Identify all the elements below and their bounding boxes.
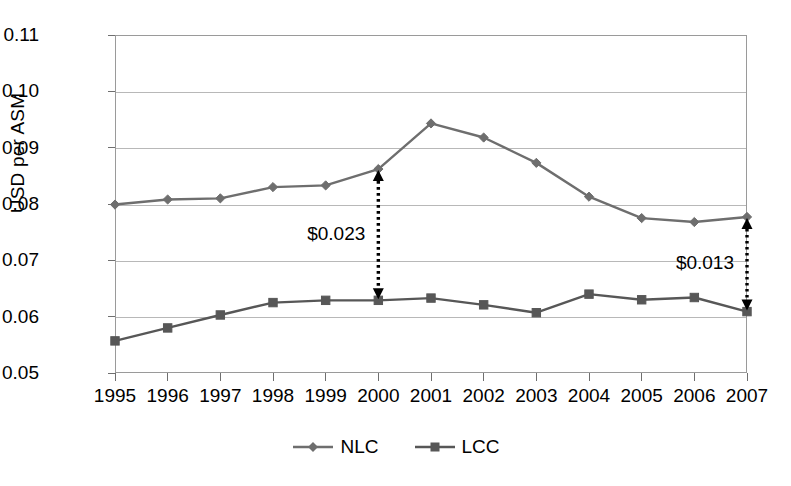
annotation-label: $0.023 [307, 224, 365, 243]
x-tick-mark [115, 373, 116, 381]
x-tick-label: 1996 [138, 386, 198, 405]
legend-label: NLC [340, 437, 378, 456]
x-tick-label: 1998 [243, 386, 303, 405]
x-tick-mark [589, 373, 590, 381]
plot-area [115, 35, 747, 373]
x-tick-mark [325, 373, 326, 381]
x-tick-label: 1999 [296, 386, 356, 405]
gridline [116, 261, 746, 262]
legend-marker-square-icon [413, 438, 457, 456]
x-tick-label: 2003 [506, 386, 566, 405]
x-tick-label: 1997 [190, 386, 250, 405]
y-tick-label: 0.08 [0, 194, 39, 213]
legend-item-lcc[interactable]: LCC [413, 437, 500, 456]
x-tick-label: 2005 [612, 386, 672, 405]
x-tick-mark [641, 373, 642, 381]
legend-marker-diamond-icon [291, 438, 335, 456]
gridline [116, 148, 746, 149]
x-tick-label: 2001 [401, 386, 461, 405]
x-tick-label: 2002 [454, 386, 514, 405]
legend-label: LCC [462, 437, 500, 456]
line-chart: USD per ASM 0.110.100.090.080.070.060.05… [0, 0, 791, 486]
x-tick-label: 2004 [559, 386, 619, 405]
x-tick-mark [167, 373, 168, 381]
gridline [116, 205, 746, 206]
y-tick-label: 0.11 [0, 25, 39, 44]
x-tick-mark [694, 373, 695, 381]
gridline [116, 317, 746, 318]
x-tick-mark [747, 373, 748, 381]
chart-legend: NLCLCC [0, 437, 791, 456]
y-tick-label: 0.06 [0, 307, 39, 326]
x-tick-label: 1995 [85, 386, 145, 405]
x-tick-label: 2007 [717, 386, 777, 405]
x-tick-label: 2006 [664, 386, 724, 405]
annotation-label: $0.013 [676, 253, 734, 272]
y-tick-label: 0.09 [0, 138, 39, 157]
x-tick-mark [220, 373, 221, 381]
x-tick-mark [273, 373, 274, 381]
x-tick-mark [536, 373, 537, 381]
gridline [116, 92, 746, 93]
y-tick-label: 0.10 [0, 81, 39, 100]
x-tick-mark [483, 373, 484, 381]
x-tick-label: 2000 [348, 386, 408, 405]
y-tick-label: 0.07 [0, 250, 39, 269]
y-tick-label: 0.05 [0, 363, 39, 382]
x-tick-mark [378, 373, 379, 381]
legend-item-nlc[interactable]: NLC [291, 437, 378, 456]
x-tick-mark [431, 373, 432, 381]
